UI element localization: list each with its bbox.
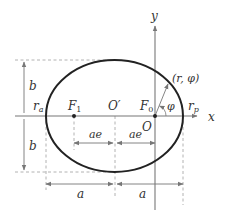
center-label: O′ (108, 99, 121, 113)
point-label: (r, φ) (172, 72, 199, 85)
ae-left-label: ae (89, 128, 103, 141)
y-axis-label: y (150, 9, 158, 23)
focus-0-dot (153, 114, 157, 118)
angle-label: φ (167, 100, 175, 113)
x-axis-label: x (208, 110, 215, 124)
b-upper-label: b (29, 79, 37, 93)
ae-right-label: ae (129, 128, 143, 141)
b-lower-label: b (29, 139, 37, 153)
focus-1-dot (72, 114, 76, 118)
origin-label: O (142, 120, 152, 134)
focus-0-label: F0 (139, 99, 153, 114)
a-right-label: a (139, 187, 146, 201)
angle-arc (160, 106, 167, 116)
r-peri-label: rp (188, 99, 199, 114)
r-apo-label: ra (33, 99, 44, 114)
focus-1-label: F1 (67, 99, 81, 114)
a-left-label: a (77, 187, 84, 201)
ellipse-diagram: y x O O′ F1 F0 ra rp (r, φ) φ b b ae ae … (0, 0, 230, 217)
